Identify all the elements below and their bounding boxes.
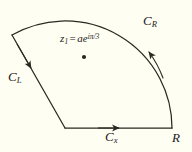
label-pole-equation: z1=aeiπ/3 — [60, 33, 99, 46]
pole-marker-dot — [82, 55, 86, 59]
label-real-axis-contour: Cx — [105, 130, 118, 145]
label-arc-subscript: R — [152, 19, 157, 29]
label-real-axis-subscript: x — [114, 135, 118, 145]
label-radius-endpoint: R — [172, 131, 180, 144]
contour-diagram-figure: CR CL Cx R z1=aeiπ/3 — [0, 0, 192, 152]
label-left-ray-contour: CL — [8, 70, 22, 85]
pole-value-exponent: iπ/3 — [88, 32, 100, 41]
label-left-ray-base: C — [8, 69, 17, 84]
pole-equals-sign: = — [68, 32, 77, 44]
label-left-ray-subscript: L — [17, 75, 22, 85]
contour-svg — [0, 0, 192, 152]
label-arc-base: C — [143, 13, 152, 28]
label-real-axis-base: C — [105, 129, 114, 144]
arrow-left-ray — [17, 44, 31, 68]
pole-value-base: ae — [77, 32, 87, 44]
label-arc-contour: CR — [143, 14, 157, 29]
